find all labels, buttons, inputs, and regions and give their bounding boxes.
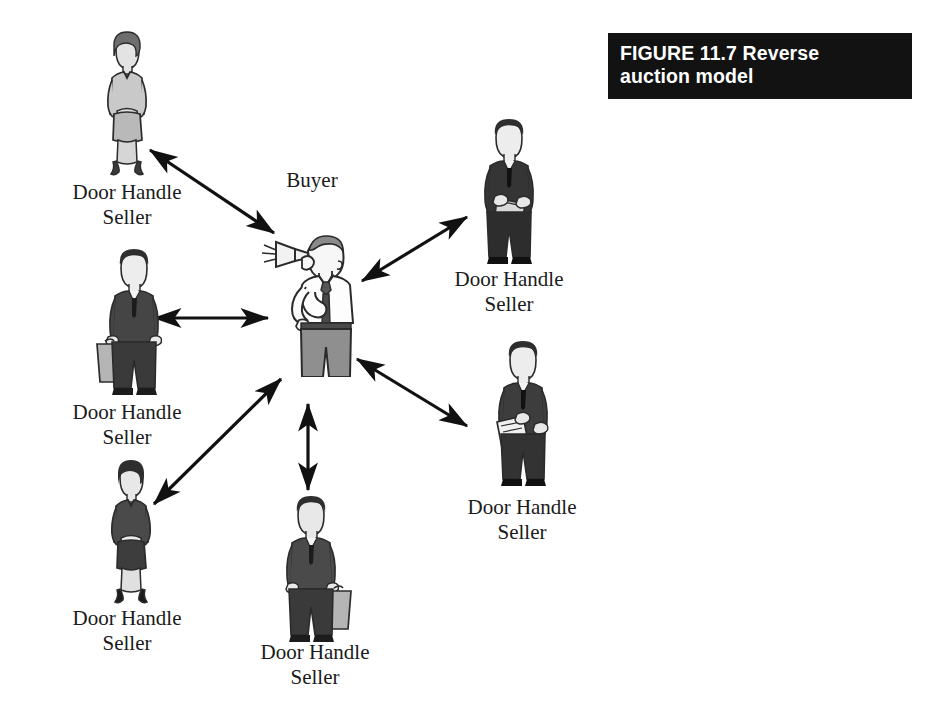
label-seller-bottom: Door Handle Seller [236, 640, 394, 690]
label-seller-top-right: Door Handle Seller [430, 267, 588, 317]
actor-seller-top-left [96, 30, 158, 178]
label-seller-right: Door Handle Seller [443, 495, 601, 545]
businessman-clipboard-icon [487, 340, 559, 490]
actor-buyer [262, 225, 362, 377]
actor-seller-bottom-left [100, 458, 162, 606]
figure-caption-box: FIGURE 11.7 Reverse auction model [608, 33, 912, 99]
businesswoman-dark-suit-icon [100, 458, 162, 606]
arrow-buyer-seller-right [357, 359, 467, 426]
person-with-megaphone-icon [262, 225, 362, 377]
label-seller-top-left: Door Handle Seller [48, 180, 206, 230]
actor-seller-bottom [276, 495, 354, 647]
label-buyer: Buyer [250, 168, 374, 193]
businessman-briefcase-icon [95, 248, 173, 400]
label-seller-left: Door Handle Seller [48, 400, 206, 450]
businessman-briefcase-icon [276, 495, 354, 647]
label-seller-bottom-left: Door Handle Seller [48, 606, 206, 656]
businessman-folder-icon [473, 118, 545, 268]
actor-seller-right [487, 340, 559, 490]
figure-page: FIGURE 11.7 Reverse auction model [0, 0, 942, 724]
figure-caption-text: FIGURE 11.7 Reverse auction model [620, 42, 912, 88]
actor-seller-top-right [473, 118, 545, 268]
businesswoman-light-suit-icon [96, 30, 158, 178]
actor-seller-left [95, 248, 173, 400]
